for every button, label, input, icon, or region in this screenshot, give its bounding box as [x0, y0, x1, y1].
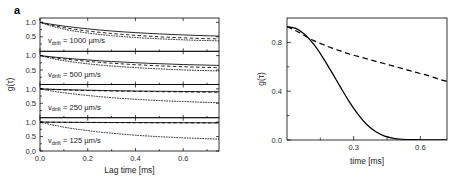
subplot-frame [40, 51, 219, 84]
y-tick-label: 0.5 [25, 66, 36, 75]
curve-dashed [287, 27, 447, 82]
y-tick-label: 0.0 [271, 136, 282, 145]
plot-frame [287, 18, 447, 140]
curve-solid [287, 27, 447, 140]
annotation-vdrift: vdrift = 1000 µm/s [48, 36, 105, 46]
x-tick-label: 0.2 [82, 154, 93, 163]
subplot-frame [40, 18, 219, 51]
y-axis-title: g(τ) [5, 78, 15, 92]
y-tick-label: 1.0 [25, 51, 36, 60]
x-axis-title: time [ms] [350, 156, 384, 166]
subplot-3: 0.51.0vdrift = 250 µm/s [25, 85, 219, 118]
subplot-2: 0.51.0vdrift = 500 µm/s [25, 51, 219, 84]
panel-b-axes: 0.00.40.80.30.6 [271, 18, 447, 152]
x-tick-label: 0.3 [348, 143, 359, 152]
y-tick-label: 1.0 [25, 18, 36, 27]
y-tick-label: 0.5 [25, 32, 36, 41]
subplot-1: 0.51.0vdrift = 1000 µm/s [25, 18, 219, 51]
panel-b: b 0.00.40.80.30.6time [ms]g(τ) [228, 0, 456, 184]
x-tick-label: 0.4 [130, 154, 141, 163]
panel-a-plot: 0.51.0vdrift = 1000 µm/s0.51.0vdrift = 5… [0, 0, 228, 184]
x-tick-label: 0.0 [35, 154, 46, 163]
y-axis-title: g(τ) [256, 72, 266, 86]
y-tick-label: 1.0 [25, 118, 36, 127]
x-tick-label: 0.6 [415, 143, 426, 152]
subplot-4: 0.00.51.0vdrift = 125 µm/s [25, 118, 219, 156]
curve-solid [40, 22, 219, 36]
panel-a-label: a [14, 5, 20, 16]
y-tick-label: 0.8 [271, 38, 282, 47]
x-tick-label: 0.6 [178, 154, 189, 163]
figure-container: a 0.51.0vdrift = 1000 µm/s0.51.0vdrift =… [0, 0, 456, 184]
y-tick-label: 0.4 [271, 87, 282, 96]
panel-b-plot: 0.00.40.80.30.6time [ms]g(τ) [228, 0, 456, 184]
y-tick-label: 0.5 [25, 99, 36, 108]
annotation-vdrift: vdrift = 125 µm/s [48, 136, 101, 146]
y-tick-label: 0.5 [25, 132, 36, 141]
panel-a: a 0.51.0vdrift = 1000 µm/s0.51.0vdrift =… [0, 0, 228, 184]
x-axis-title: Lag time [ms] [104, 165, 154, 175]
annotation-vdrift: vdrift = 500 µm/s [48, 70, 101, 80]
y-tick-label: 1.0 [25, 85, 36, 94]
annotation-vdrift: vdrift = 250 µm/s [48, 103, 101, 113]
curve-dashed [40, 56, 219, 68]
